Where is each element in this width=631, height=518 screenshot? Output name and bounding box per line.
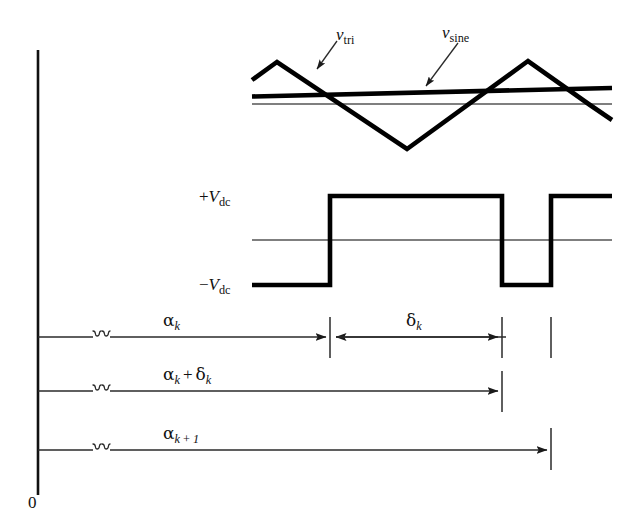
v-tri-label: vtri xyxy=(336,26,354,46)
figure-root: vtri vsine +Vdc −Vdc αk δk αk+δk αk + 1 … xyxy=(0,0,631,518)
alpha-subscript: k xyxy=(174,373,179,387)
break-symbol-row2-b xyxy=(102,385,110,390)
delta-k-symbol: δ xyxy=(406,310,416,330)
figure-canvas xyxy=(0,0,631,518)
break-symbol-row2-a xyxy=(93,385,101,390)
v-tri-symbol: v xyxy=(336,25,344,44)
alpha-k-plus-1-label: αk + 1 xyxy=(163,425,199,445)
alpha-k-plus-delta-k-label: αk+δk xyxy=(163,366,211,386)
positive-vdc-sign: + xyxy=(199,187,209,206)
v-tri-pointer-arrow xyxy=(317,41,337,69)
alpha-k-subscript: k xyxy=(174,319,179,333)
alpha-k-label: αk xyxy=(163,312,180,332)
v-sine-subscript: sine xyxy=(450,31,470,45)
negative-vdc-label: −Vdc xyxy=(199,276,231,296)
v-sine-pointer-arrow xyxy=(426,43,458,86)
break-symbol-row3-a xyxy=(93,444,101,449)
delta-k-label: δk xyxy=(406,312,422,332)
v-sine-symbol: v xyxy=(442,23,450,42)
triangle-carrier-waveform xyxy=(252,61,612,149)
negative-vdc-sign: − xyxy=(199,275,209,294)
positive-vdc-label: +Vdc xyxy=(199,188,231,208)
break-symbol-row3-b xyxy=(102,444,110,449)
origin-label: 0 xyxy=(28,494,37,511)
alpha-k-plus-1-symbol: α xyxy=(163,423,174,443)
break-symbol-row1-a xyxy=(93,331,101,336)
plus-operator: + xyxy=(183,365,193,384)
delta-symbol: δ xyxy=(196,364,206,384)
alpha-k-symbol: α xyxy=(163,310,174,330)
break-symbol-row1-b xyxy=(102,331,110,336)
alpha-symbol: α xyxy=(163,364,174,384)
v-sine-label: vsine xyxy=(442,24,469,44)
delta-k-subscript: k xyxy=(416,319,421,333)
positive-vdc-subscript: dc xyxy=(219,195,231,209)
positive-vdc-symbol: V xyxy=(209,187,219,206)
negative-vdc-symbol: V xyxy=(209,275,219,294)
negative-vdc-subscript: dc xyxy=(219,283,231,297)
delta-subscript: k xyxy=(206,373,211,387)
sine-waveform xyxy=(252,88,612,97)
v-tri-subscript: tri xyxy=(344,33,355,47)
alpha-k-plus-1-subscript: k + 1 xyxy=(174,432,199,446)
